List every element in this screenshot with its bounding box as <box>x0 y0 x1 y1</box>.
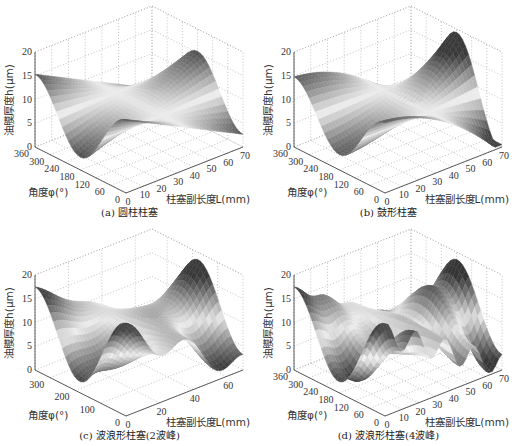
surface <box>294 259 502 382</box>
surface-plot-a: 0510152001020304050607006012018024030036… <box>0 0 259 223</box>
z-tick-label: 5 <box>286 340 291 351</box>
y-axis-label: 角度φ(°) <box>28 409 68 421</box>
x-tick-label: 50 <box>466 163 476 174</box>
y-axis-label: 角度φ(°) <box>287 186 327 198</box>
z-tick-label: 10 <box>22 94 32 105</box>
y-tick-label: 360 <box>273 371 288 382</box>
x-tick-label: 50 <box>466 386 476 397</box>
y-tick-label: 120 <box>334 402 349 413</box>
x-tick-label: 70 <box>499 373 509 384</box>
x-tick-label: 10 <box>140 189 150 200</box>
x-tick-label: 40 <box>449 170 459 181</box>
caption-a: (a) 圆柱柱塞 <box>0 204 259 219</box>
z-tick-label: 15 <box>22 70 32 81</box>
x-tick-label: 60 <box>482 157 492 168</box>
z-tick-label: 10 <box>281 317 291 328</box>
y-tick-label: 60 <box>354 186 364 197</box>
x-tick-label: 10 <box>399 189 409 200</box>
z-axis-label: 油膜厚度h(μm) <box>262 64 274 136</box>
surface <box>35 259 243 382</box>
z-tick-label: 5 <box>286 117 291 128</box>
y-tick-label: 360 <box>14 148 29 159</box>
y-tick-label: 240 <box>303 163 318 174</box>
x-tick-label: 40 <box>190 393 200 404</box>
surface-plot-d: 0510152001020304050607006012018024030036… <box>259 223 518 446</box>
z-tick-label: 10 <box>281 94 291 105</box>
z-tick-label: 15 <box>281 293 291 304</box>
z-tick-label: 20 <box>22 46 32 57</box>
y-tick-label: 200 <box>54 391 69 402</box>
z-tick-label: 10 <box>22 317 32 328</box>
y-tick-label: 360 <box>273 148 288 159</box>
x-tick-label: 30 <box>432 399 442 410</box>
y-tick-label: 120 <box>334 179 349 190</box>
z-tick-label: 0 <box>27 364 32 375</box>
y-tick-label: 300 <box>288 156 303 167</box>
z-tick-label: 15 <box>22 293 32 304</box>
x-tick-label: 30 <box>173 176 183 187</box>
panel-b: 0510152001020304050607006012018024030036… <box>259 0 518 223</box>
z-tick-label: 15 <box>281 70 291 81</box>
z-tick-label: 20 <box>281 269 291 280</box>
z-tick-label: 20 <box>22 269 32 280</box>
y-tick-label: 300 <box>29 156 44 167</box>
y-tick-label: 180 <box>319 394 334 405</box>
x-tick-label: 40 <box>190 170 200 181</box>
panel-d: 0510152001020304050607006012018024030036… <box>259 223 518 446</box>
caption-c: (c) 波浪形柱塞(2波峰) <box>0 427 259 442</box>
z-axis-label: 油膜厚度h(μm) <box>262 287 274 359</box>
x-tick-label: 10 <box>399 412 409 423</box>
x-tick-label: 70 <box>240 150 250 161</box>
y-tick-label: 180 <box>319 171 334 182</box>
x-tick-label: 50 <box>207 163 217 174</box>
surface <box>35 50 243 158</box>
caption-d: (d) 波浪形柱塞(4波峰) <box>259 427 518 442</box>
y-tick-label: 180 <box>60 171 75 182</box>
surface-plot-c: 0510152002040600100200300油膜厚度h(μm)柱塞副长度L… <box>0 223 259 446</box>
x-tick-label: 60 <box>223 380 233 391</box>
y-axis-label: 角度φ(°) <box>28 186 68 198</box>
x-tick-label: 40 <box>449 393 459 404</box>
caption-b: (b) 鼓形柱塞 <box>259 204 518 219</box>
z-tick-label: 5 <box>27 340 32 351</box>
x-tick-label: 60 <box>223 157 233 168</box>
panel-a: 0510152001020304050607006012018024030036… <box>0 0 259 223</box>
y-tick-label: 240 <box>303 386 318 397</box>
y-tick-label: 100 <box>80 404 95 415</box>
z-axis-label: 油膜厚度h(μm) <box>3 287 15 359</box>
y-tick-label: 240 <box>44 163 59 174</box>
z-tick-label: 20 <box>281 46 291 57</box>
y-tick-label: 300 <box>29 379 44 390</box>
z-tick-label: 5 <box>27 117 32 128</box>
y-tick-label: 60 <box>354 409 364 420</box>
surface-plot-b: 0510152001020304050607006012018024030036… <box>259 0 518 223</box>
surface <box>294 32 502 156</box>
z-axis-label: 油膜厚度h(μm) <box>3 64 15 136</box>
y-axis-label: 角度φ(°) <box>287 409 327 421</box>
panel-c: 0510152002040600100200300油膜厚度h(μm)柱塞副长度L… <box>0 223 259 446</box>
y-tick-label: 60 <box>95 186 105 197</box>
y-tick-label: 120 <box>75 179 90 190</box>
x-tick-label: 60 <box>482 380 492 391</box>
x-tick-label: 30 <box>432 176 442 187</box>
y-tick-label: 300 <box>288 379 303 390</box>
x-tick-label: 70 <box>499 150 509 161</box>
